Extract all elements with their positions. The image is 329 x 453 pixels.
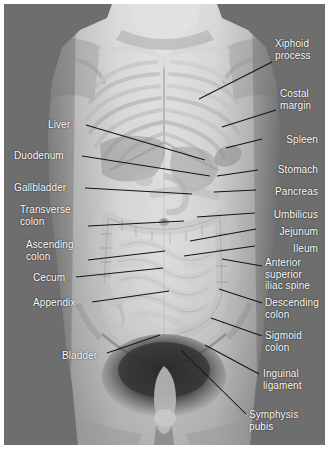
- label-spleen: Spleen: [232, 134, 318, 146]
- label-symphysis-pubis: Symphysis pubis: [249, 409, 298, 432]
- label-pancreas: Pancreas: [232, 186, 318, 198]
- label-xiphoid-process: Xiphoid process: [275, 38, 311, 61]
- label-umbilicus: Umbilicus: [232, 209, 318, 221]
- label-inguinal-ligament: Inguinal ligament: [263, 368, 302, 391]
- label-appendix: Appendix: [33, 297, 76, 309]
- label-liver: Liver: [48, 119, 70, 131]
- label-ascending-colon: Ascending colon: [26, 239, 74, 262]
- label-descending-colon: Descending colon: [265, 297, 319, 320]
- label-transverse-colon: Transverse colon: [20, 204, 71, 227]
- label-costal-margin: Costal margin: [280, 88, 311, 111]
- label-cecum: Cecum: [33, 272, 65, 284]
- label-bladder: Bladder: [62, 350, 97, 362]
- label-stomach: Stomach: [232, 164, 318, 176]
- label-anterior-superior-iliac-spine: Anterior superior iliac spine: [265, 257, 310, 292]
- label-ileum: Ileum: [232, 243, 318, 255]
- anatomy-plate: LiverDuodenumGallbladderTransverse colon…: [4, 4, 325, 445]
- anatomy-figure: LiverDuodenumGallbladderTransverse colon…: [0, 0, 329, 453]
- label-gallbladder: Gallbladder: [14, 182, 66, 194]
- label-sigmoid-colon: Sigmoid colon: [265, 330, 302, 353]
- label-duodenum: Duodenum: [14, 150, 64, 162]
- label-jejunum: Jejunum: [232, 226, 318, 238]
